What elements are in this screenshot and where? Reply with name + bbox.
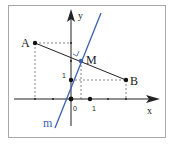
point-M <box>79 59 83 63</box>
label-y-unit: 1 <box>62 72 66 79</box>
point-A <box>33 41 37 45</box>
point-y-unit <box>69 78 73 82</box>
point-B <box>124 78 128 82</box>
label-B: B <box>130 74 138 88</box>
point-x-unit <box>88 97 92 101</box>
label-A: A <box>21 36 30 50</box>
coordinate-diagram: A B M y x 0 1 1 m <box>0 0 176 147</box>
label-x-unit: 1 <box>92 105 96 112</box>
diagram-frame <box>9 6 166 138</box>
label-x-axis: x <box>147 105 152 116</box>
label-y-axis: y <box>78 10 83 21</box>
label-line-m: m <box>43 116 53 130</box>
point-origin <box>69 97 74 102</box>
label-M: M <box>86 53 97 67</box>
label-origin: 0 <box>73 105 77 112</box>
